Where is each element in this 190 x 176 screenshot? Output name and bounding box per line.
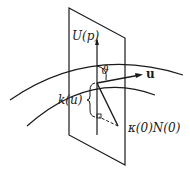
curvature-vector — [97, 83, 118, 126]
u-arrowhead — [135, 73, 143, 78]
k-brace — [87, 83, 95, 117]
curvature-vector-label-text: κ(0)N(0) — [128, 121, 180, 135]
curvature-vector-label: κ(0)N(0) — [128, 122, 180, 134]
plane-label: U(p) — [72, 30, 99, 42]
u-label: u — [146, 68, 155, 80]
k-label: k(u) — [58, 94, 82, 106]
theta-label: ϑ — [101, 65, 109, 76]
diagram-canvas — [0, 0, 190, 176]
k-label-text: k(u) — [58, 93, 82, 107]
plane-label-text: U(p) — [72, 29, 99, 43]
